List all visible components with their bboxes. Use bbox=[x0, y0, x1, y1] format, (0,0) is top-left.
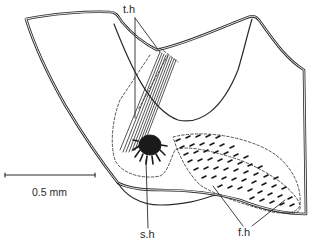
leader-sh bbox=[146, 160, 148, 228]
diagram-figure bbox=[0, 0, 314, 245]
scale-bar-label: 0.5 mm bbox=[32, 187, 67, 198]
label-tactile-hairs: t.h bbox=[123, 4, 135, 15]
leader-fh-2 bbox=[252, 200, 285, 226]
sensory-hair-cluster bbox=[133, 135, 167, 164]
leader-th-2 bbox=[135, 18, 160, 52]
scale-bar bbox=[5, 173, 95, 177]
fine-hair-field bbox=[176, 135, 294, 206]
lower-fold-curve bbox=[118, 183, 215, 205]
leader-fh-1 bbox=[213, 186, 243, 226]
label-sensory-hairs: s.h bbox=[140, 229, 155, 240]
label-fine-hairs: f.h bbox=[238, 227, 250, 238]
